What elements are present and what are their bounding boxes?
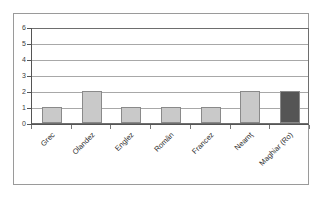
y-axis-line bbox=[31, 28, 32, 125]
bar bbox=[121, 107, 141, 123]
x-tick-mark bbox=[31, 125, 32, 129]
x-tick-mark bbox=[190, 125, 191, 129]
y-tick-label: 4 bbox=[0, 56, 26, 63]
y-tick-label: 1 bbox=[0, 104, 26, 111]
gridline bbox=[32, 60, 308, 61]
y-tick-label: 6 bbox=[0, 24, 26, 31]
gridline bbox=[32, 44, 308, 45]
x-tick-mark bbox=[71, 125, 72, 129]
gridline bbox=[32, 76, 308, 77]
x-axis-line bbox=[31, 124, 309, 125]
gridline bbox=[32, 92, 308, 93]
y-tick-label: 2 bbox=[0, 88, 26, 95]
gridline bbox=[32, 28, 308, 29]
bar bbox=[280, 91, 300, 123]
chart-figure: 0123456 GrecOlandezEnglezRomânFrancezNea… bbox=[0, 0, 327, 198]
y-tick-label: 3 bbox=[0, 72, 26, 79]
bar bbox=[42, 107, 62, 123]
x-tick-mark bbox=[269, 125, 270, 129]
bar bbox=[82, 91, 102, 123]
bar bbox=[161, 107, 181, 123]
x-tick-mark bbox=[309, 125, 310, 129]
bar bbox=[201, 107, 221, 123]
plot-area bbox=[31, 28, 309, 124]
y-tick-label: 5 bbox=[0, 40, 26, 47]
y-tick-label: 0 bbox=[0, 120, 26, 127]
bar bbox=[240, 91, 260, 123]
x-tick-mark bbox=[110, 125, 111, 129]
x-tick-mark bbox=[230, 125, 231, 129]
x-tick-mark bbox=[150, 125, 151, 129]
